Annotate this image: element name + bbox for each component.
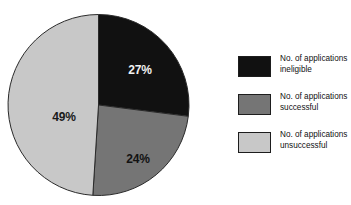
- legend-item-ineligible[interactable]: No. of applications ineligible: [238, 54, 350, 92]
- legend-label-unsuccessful-line1: No. of applications: [280, 130, 347, 139]
- legend-item-successful[interactable]: No. of applications successful: [238, 92, 350, 130]
- legend-label-ineligible-line2: ineligible: [280, 65, 351, 76]
- pie-slice-group: [8, 15, 189, 196]
- pie-slice-unsuccessful[interactable]: [8, 15, 98, 196]
- legend-swatch-unsuccessful: [238, 132, 271, 153]
- pie-svg: [7, 13, 190, 197]
- legend-swatch-successful: [238, 94, 271, 115]
- chart-legend: No. of applications ineligible No. of ap…: [238, 54, 350, 168]
- legend-label-successful-line1: No. of applications: [280, 92, 347, 101]
- pie-chart-figure: and foundations responding to the questi…: [0, 0, 351, 205]
- legend-label-ineligible: No. of applications ineligible: [280, 54, 351, 75]
- legend-swatch-ineligible: [238, 56, 271, 77]
- pie-slice-label-successful: 24%: [118, 152, 158, 166]
- pie-chart: 27% 24% 49%: [7, 13, 190, 197]
- legend-label-ineligible-line1: No. of applications: [280, 54, 347, 63]
- legend-label-unsuccessful: No. of applications unsuccessful: [280, 130, 351, 151]
- legend-label-successful-line2: successful: [280, 103, 351, 114]
- chart-title: and foundations responding to the questi…: [0, 0, 351, 1]
- legend-label-successful: No. of applications successful: [280, 92, 351, 113]
- pie-slice-label-ineligible: 27%: [120, 63, 160, 77]
- pie-slice-label-unsuccessful: 49%: [44, 110, 84, 124]
- legend-item-unsuccessful[interactable]: No. of applications unsuccessful: [238, 130, 350, 168]
- legend-label-unsuccessful-line2: unsuccessful: [280, 141, 351, 152]
- pie-slice-successful[interactable]: [93, 105, 188, 195]
